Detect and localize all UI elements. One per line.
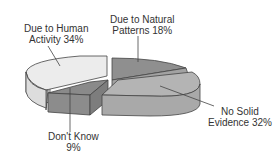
label-human-activity: Due to Human Activity 34%	[24, 23, 88, 45]
label-natural-line2: Patterns 18%	[110, 25, 174, 36]
label-evidence-line2: Evidence 32%	[208, 117, 272, 128]
label-evidence-line1: No Solid	[208, 106, 272, 117]
label-human-line2: Activity 34%	[24, 34, 88, 45]
label-dont-know: Don't Know 9%	[48, 131, 99, 153]
label-dontknow-line1: Don't Know	[48, 131, 99, 142]
label-natural-patterns: Due to Natural Patterns 18%	[110, 14, 174, 36]
label-dontknow-line2: 9%	[48, 142, 99, 153]
label-human-line1: Due to Human	[24, 23, 88, 34]
label-natural-line1: Due to Natural	[110, 14, 174, 25]
label-no-solid-evidence: No Solid Evidence 32%	[208, 106, 272, 128]
